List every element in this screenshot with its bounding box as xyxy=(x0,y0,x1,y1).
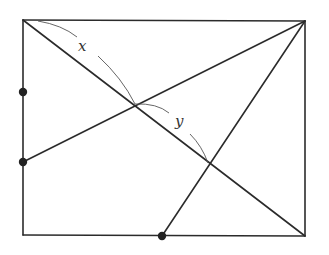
point-bottom xyxy=(158,232,166,240)
segment-to-left-point xyxy=(23,21,305,162)
arc-y-upper xyxy=(135,104,169,113)
arc-x-upper xyxy=(38,21,77,37)
arc-x xyxy=(38,21,135,104)
arc-x-lower xyxy=(98,56,135,104)
point-left-upper xyxy=(19,88,27,96)
label-y: y xyxy=(174,112,184,130)
label-x: x xyxy=(78,37,87,55)
diagonal-line xyxy=(23,20,305,236)
point-left-lower xyxy=(19,158,27,166)
geometry-diagram: x y xyxy=(0,0,329,255)
rectangle-top-edge xyxy=(23,20,305,21)
